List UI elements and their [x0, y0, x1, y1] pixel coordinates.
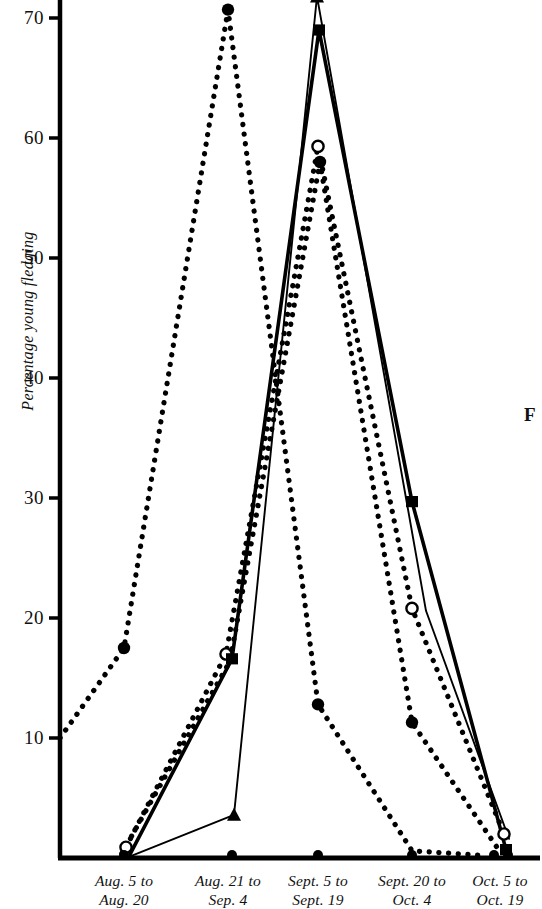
- data-point-marker: [227, 850, 237, 860]
- data-point-marker: [489, 850, 499, 860]
- series-line: [122, 162, 501, 853]
- data-point-marker: [312, 698, 324, 710]
- data-point-marker: [313, 850, 323, 860]
- data-point-marker: [118, 642, 130, 654]
- chart-plot-area: [0, 0, 542, 909]
- data-point-marker: [503, 850, 513, 860]
- figure-caption: F: [524, 404, 542, 426]
- y-axis-tick-label: 40: [0, 367, 44, 389]
- data-point-marker: [312, 141, 323, 152]
- x-tick-line1: Aug. 5 to: [72, 871, 176, 890]
- y-axis-tick-label: 30: [0, 487, 44, 509]
- data-point-marker: [407, 850, 417, 860]
- x-tick-line2: Sep. 4: [176, 890, 280, 909]
- data-point-marker: [310, 0, 324, 2]
- y-axis-label: Percentage young fledging: [19, 201, 37, 441]
- data-point-marker: [314, 156, 326, 168]
- data-point-marker: [498, 828, 509, 839]
- data-point-marker: [226, 653, 238, 664]
- y-axis-tick-label: 50: [0, 247, 44, 269]
- data-point-marker: [222, 3, 234, 15]
- x-tick-line2: Oct. 19: [448, 890, 542, 909]
- x-tick-line2: Sept. 19: [266, 890, 370, 909]
- data-point-marker: [119, 850, 129, 860]
- x-tick-line1: Oct. 5 to: [448, 871, 542, 890]
- data-point-marker: [406, 496, 418, 507]
- data-point-marker: [313, 24, 325, 35]
- x-axis-tick-label: Oct. 5 toOct. 19: [448, 871, 542, 909]
- data-point-marker: [406, 716, 418, 728]
- x-axis-tick-label: Aug. 21 toSep. 4: [176, 871, 280, 909]
- x-axis-tick-label: Sept. 5 toSept. 19: [266, 871, 370, 909]
- x-tick-line1: Aug. 21 to: [176, 871, 280, 890]
- data-point-marker: [406, 603, 417, 614]
- y-axis-tick-label: 60: [0, 127, 44, 149]
- y-axis-tick-label: 70: [0, 7, 44, 29]
- x-tick-line1: Sept. 5 to: [266, 871, 370, 890]
- x-axis-tick-label: Aug. 5 toAug. 20: [72, 871, 176, 909]
- x-tick-line2: Aug. 20: [72, 890, 176, 909]
- chart-figure: Percentage young fledging 10203040506070…: [0, 0, 542, 909]
- data-point-marker: [227, 808, 241, 821]
- y-axis-tick-label: 10: [0, 727, 44, 749]
- y-axis-tick-label: 20: [0, 607, 44, 629]
